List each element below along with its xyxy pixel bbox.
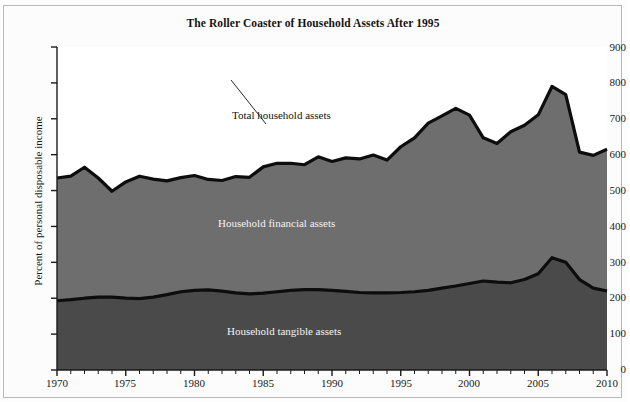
- area-chart-canvas: [57, 47, 607, 370]
- x-tick-2005: 2005: [515, 377, 561, 389]
- annotation-financial-assets: Household financial assets: [218, 217, 335, 229]
- annotation-tangible-assets: Household tangible assets: [227, 325, 341, 337]
- x-tick-1970: 1970: [34, 377, 80, 389]
- financial-assets-area: [57, 86, 607, 300]
- x-tick-2000: 2000: [446, 377, 492, 389]
- x-tick-2010: 2010: [584, 377, 630, 389]
- page-title: The Roller Coaster of Household Assets A…: [0, 17, 626, 29]
- annotation-total-assets: Total household assets: [232, 109, 331, 121]
- plot-area: Total household assets Household financi…: [57, 47, 607, 370]
- x-tick-1985: 1985: [240, 377, 286, 389]
- x-tick-1995: 1995: [378, 377, 424, 389]
- x-tick-1980: 1980: [171, 377, 217, 389]
- x-tick-1990: 1990: [309, 377, 355, 389]
- x-tick-1975: 1975: [102, 377, 148, 389]
- y-axis-title: Percent of personal disposable income: [32, 71, 44, 331]
